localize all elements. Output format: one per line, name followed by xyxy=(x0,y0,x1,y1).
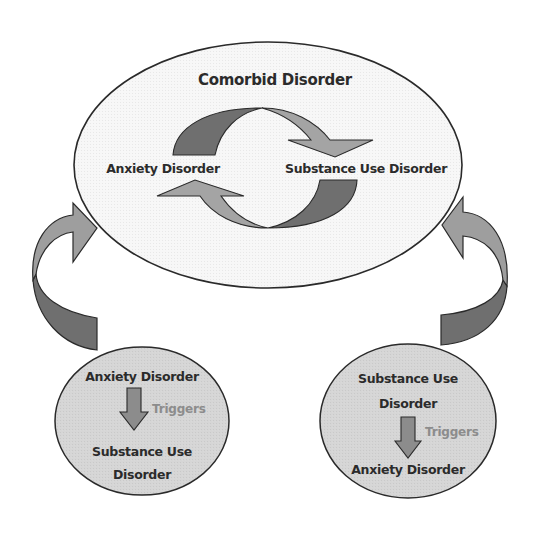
comorbid-disorder-title: Comorbid Disorder xyxy=(198,71,338,89)
left-circle-top-label: Anxiety Disorder xyxy=(72,365,212,388)
right-circle-top-label-line1: Substance Use xyxy=(338,367,478,390)
left-feedback-arrow-icon xyxy=(33,203,97,350)
cycle-node-anxiety: Anxiety Disorder xyxy=(98,161,228,176)
right-circle-top-label-line2: Disorder xyxy=(338,392,478,415)
left-circle-bottom-label-line1: Substance Use xyxy=(72,440,212,463)
cycle-node-substance-use: Substance Use Disorder xyxy=(279,161,453,176)
left-circle-bottom-label-line2: Disorder xyxy=(72,463,212,486)
left-circle-triggers-label: Triggers xyxy=(152,402,206,416)
right-circle-triggers-label: Triggers xyxy=(425,425,479,439)
right-circle-bottom-label: Anxiety Disorder xyxy=(335,458,481,481)
right-feedback-arrow-icon xyxy=(441,197,507,345)
